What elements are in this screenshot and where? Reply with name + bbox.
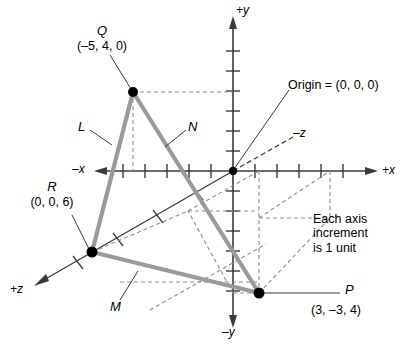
leader-origin <box>234 90 289 169</box>
point-label-Q: Q (–5, 4, 0) <box>52 24 152 53</box>
leader-M <box>120 271 138 300</box>
point-label-P: P <box>345 283 354 298</box>
point-marker-R <box>87 247 98 258</box>
point-marker-Q <box>128 87 138 97</box>
leader-q <box>110 55 131 89</box>
segment-label-M: M <box>110 300 121 315</box>
point-name-Q: Q <box>52 24 152 39</box>
point-coords-R: (0, 0, 6) <box>8 195 96 209</box>
point-name-P: P <box>345 283 354 298</box>
leader-r <box>72 215 89 249</box>
x-axis-negative-arrowhead <box>94 167 107 175</box>
point-marker-origin <box>229 167 237 175</box>
x-axis-positive-arrowhead <box>365 167 378 175</box>
axis-label-y-positive: +y <box>236 4 249 18</box>
axis-label-x-negative: –x <box>72 163 85 177</box>
point-label-R: R (0, 0, 6) <box>8 180 96 209</box>
point-markers <box>87 87 265 299</box>
note-line-3: is 1 unit <box>313 241 368 255</box>
axis-label-z-negative: –z <box>293 127 306 141</box>
axis-label-x-positive: +x <box>382 164 395 178</box>
z-axis-positive-arrowhead <box>34 274 49 286</box>
point-marker-P <box>254 288 265 299</box>
r-to-box-guide <box>92 211 188 252</box>
segment-label-N: N <box>188 120 197 135</box>
p-box-diagonal-c <box>259 171 330 218</box>
note-line-1: Each axis <box>313 212 368 226</box>
origin-label: Origin = (0, 0, 0) <box>288 78 379 92</box>
z-axis-negative-line <box>233 137 293 171</box>
note-line-2: increment <box>313 226 368 240</box>
axis-label-y-negative: –y <box>222 326 235 340</box>
construction-lines <box>92 92 330 310</box>
axis-increment-note: Each axis increment is 1 unit <box>313 212 368 255</box>
point-coords-Q: (–5, 4, 0) <box>52 39 152 53</box>
axis-label-z-positive: +z <box>10 283 23 297</box>
leader-L <box>90 130 112 145</box>
point-name-R: R <box>8 180 96 195</box>
coordinate-diagram: +y –y +x –x +z –z Origin = (0, 0, 0) Q (… <box>0 0 403 348</box>
segment-label-L: L <box>78 120 85 135</box>
segment-M <box>92 252 259 293</box>
leader-N <box>165 130 186 147</box>
triangle-pqr <box>92 92 259 293</box>
y-axis-positive-arrowhead <box>229 16 237 29</box>
point-coords-P: (3, –3, 4) <box>311 303 361 317</box>
